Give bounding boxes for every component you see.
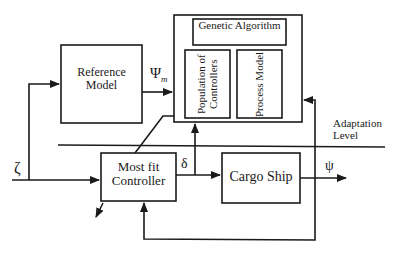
adaptive-control-diagram: Reference Model Genetic Algorithm Popula… bbox=[0, 0, 399, 255]
genetic-algorithm-block: Genetic Algorithm bbox=[193, 20, 286, 32]
zeta-signal-label: ζ bbox=[14, 160, 21, 177]
adaptation-level-annotation: Adaptation Level bbox=[333, 118, 393, 141]
process-model-label: Process Model bbox=[254, 51, 266, 116]
genetic-algorithm-label: Genetic Algorithm bbox=[198, 19, 280, 31]
delta-signal-label: δ bbox=[181, 157, 188, 172]
most-fit-controller-block: Most fit Controller bbox=[101, 160, 176, 187]
reference-model-label: Reference Model bbox=[77, 65, 126, 92]
cargo-ship-block: Cargo Ship bbox=[222, 170, 300, 185]
most-fit-controller-label: Most fit Controller bbox=[112, 159, 165, 188]
process-model-block: Process Model bbox=[237, 50, 282, 118]
population-of-controllers-block: Population of Controllers bbox=[185, 50, 230, 118]
psi-signal-label: ψ bbox=[325, 159, 334, 174]
cargo-ship-label: Cargo Ship bbox=[229, 169, 292, 184]
population-of-controllers-label: Population of Controllers bbox=[196, 50, 219, 118]
reference-model-block: Reference Model bbox=[61, 66, 142, 91]
psi-m-signal-label: Ψm bbox=[150, 66, 168, 84]
